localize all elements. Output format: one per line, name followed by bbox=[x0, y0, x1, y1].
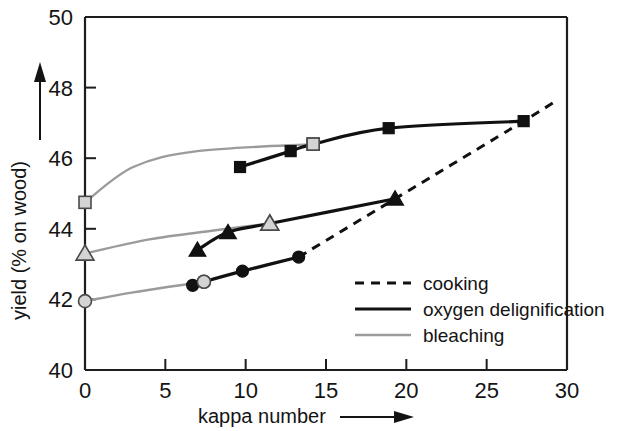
y-axis-tick-labels: 404244464850 bbox=[49, 5, 73, 383]
series-oxygen-delignification bbox=[193, 121, 524, 285]
y-tick-label: 46 bbox=[49, 146, 73, 171]
filled-square-marker bbox=[235, 162, 246, 173]
filled-triangle-marker bbox=[189, 242, 206, 256]
filled-square-marker bbox=[285, 146, 296, 157]
y-tick-label: 40 bbox=[49, 358, 73, 383]
x-axis-ticks bbox=[165, 359, 486, 370]
series-line bbox=[85, 282, 204, 301]
x-tick-label: 0 bbox=[79, 378, 91, 403]
y-tick-label: 44 bbox=[49, 217, 73, 242]
x-axis-title-group: kappa number bbox=[198, 405, 414, 427]
yield-vs-kappa-chart: 404244464850 051015202530 yield (% on wo… bbox=[0, 0, 632, 431]
open-square-marker bbox=[307, 138, 319, 150]
filled-square-marker bbox=[518, 116, 529, 127]
x-tick-label: 5 bbox=[159, 378, 171, 403]
open-circle-marker bbox=[79, 295, 92, 308]
legend-label-oxygen: oxygen delignification bbox=[423, 299, 605, 320]
x-axis-tick-labels: 051015202530 bbox=[79, 378, 579, 403]
legend-label-cooking: cooking bbox=[423, 273, 489, 294]
series-line bbox=[197, 199, 395, 250]
chart-figure: 404244464850 051015202530 yield (% on wo… bbox=[0, 0, 632, 431]
x-tick-label: 30 bbox=[555, 378, 579, 403]
filled-circle-marker bbox=[293, 251, 305, 263]
filled-square-marker bbox=[383, 123, 394, 134]
series-line bbox=[85, 144, 313, 202]
arrow-right-icon bbox=[394, 411, 414, 423]
x-tick-label: 10 bbox=[233, 378, 257, 403]
arrow-up-icon bbox=[34, 62, 46, 82]
y-tick-label: 42 bbox=[49, 287, 73, 312]
x-axis-title: kappa number bbox=[198, 405, 326, 427]
filled-triangle-marker bbox=[387, 191, 404, 205]
x-tick-label: 15 bbox=[314, 378, 338, 403]
y-tick-label: 48 bbox=[49, 76, 73, 101]
open-circle-marker bbox=[197, 275, 210, 288]
open-square-marker bbox=[79, 196, 91, 208]
x-tick-label: 20 bbox=[394, 378, 418, 403]
y-axis-title: yield (% on wood) bbox=[8, 161, 30, 320]
legend-label-bleaching: bleaching bbox=[423, 325, 504, 346]
series-line bbox=[240, 121, 524, 167]
filled-circle-marker bbox=[236, 265, 248, 277]
y-axis-title-group: yield (% on wood) bbox=[8, 62, 46, 320]
x-tick-label: 25 bbox=[474, 378, 498, 403]
y-tick-label: 50 bbox=[49, 5, 73, 30]
